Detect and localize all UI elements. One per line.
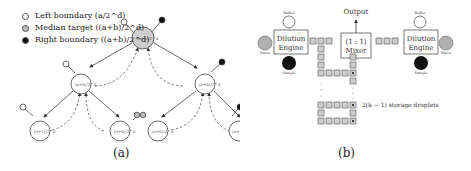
panel-a-tree-diagram: (a+b)/2^d (a+b)/2^d (a+b)/2^d (a+1)/2^d …: [0, 0, 240, 171]
caption-b: (b): [338, 146, 355, 160]
svg-text:Buffer: Buffer: [414, 11, 425, 15]
chip-graph: Dilution Engine Buffer Waste Sample (1 :…: [240, 0, 471, 171]
svg-text:(a+b)/2^d: (a+b)/2^d: [152, 129, 174, 134]
svg-text:Dilution: Dilution: [407, 35, 436, 43]
svg-text:(a+1)/2^d: (a+1)/2^d: [34, 129, 56, 134]
legend-right-boundary: Right boundary ((a+b)/2^d): [22, 34, 149, 46]
svg-text:Engine: Engine: [409, 44, 434, 52]
svg-text:Waste: Waste: [260, 51, 271, 55]
legend-left-boundary: Left boundary (a/2^d): [22, 10, 149, 22]
panel-b-chip-layout: Dilution Engine Buffer Waste Sample (1 :…: [240, 0, 471, 171]
svg-text:Dilution: Dilution: [277, 35, 306, 43]
svg-text:Output: Output: [344, 8, 369, 16]
svg-text:(a+b)/2^d: (a+b)/2^d: [199, 82, 221, 87]
svg-text:Engine: Engine: [279, 44, 304, 52]
svg-text:Mixer: Mixer: [346, 47, 367, 55]
svg-text:(a+b)/2^d: (a+b)/2^d: [75, 82, 97, 87]
caption-a: (a): [113, 146, 130, 160]
gray-circle-icon: [22, 25, 29, 32]
svg-text:(1 : 1): (1 : 1): [345, 38, 366, 46]
svg-text:Sample: Sample: [282, 71, 295, 75]
white-circle-icon: [22, 13, 29, 20]
legend-median-target: Median target ((a+b)/2^d): [22, 22, 149, 34]
black-circle-icon: [22, 37, 29, 44]
svg-text:(a+1)/2^d: (a+1)/2^d: [232, 129, 240, 134]
svg-text:Waste: Waste: [441, 51, 452, 55]
legend: Left boundary (a/2^d) Median target ((a+…: [22, 10, 149, 46]
svg-text:Buffer: Buffer: [283, 11, 294, 15]
svg-text:(a+b)/2^d: (a+b)/2^d: [114, 129, 136, 134]
svg-text:2(k − 1) storage droplets: 2(k − 1) storage droplets: [362, 101, 439, 109]
svg-text:Sample: Sample: [414, 71, 427, 75]
